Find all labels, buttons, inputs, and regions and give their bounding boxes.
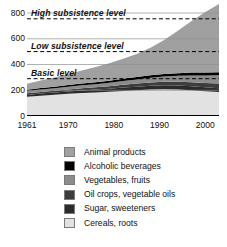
legend-swatch-icon [64, 204, 75, 214]
x-tick-label-1980: 1980 [104, 121, 123, 130]
reference-label-0: High subsistence level [31, 8, 126, 18]
stacked-area-chart: 0200400600800 19611970198019902000 High … [0, 0, 227, 136]
legend-item-4[interactable]: Sugar, sweeteners [0, 202, 227, 216]
legend-item-3[interactable]: Oil crops, vegetable oils [0, 188, 227, 202]
legend-swatch-icon [64, 147, 75, 157]
chart-figure: 0200400600800 19611970198019902000 High … [0, 0, 227, 247]
x-tick-label-1970: 1970 [59, 121, 78, 130]
legend-swatch-icon [64, 161, 75, 171]
x-tick-label-1990: 1990 [150, 121, 169, 130]
plot-svg [27, 4, 219, 116]
legend-swatch-icon [64, 190, 75, 200]
legend-item-5[interactable]: Cereals, roots [0, 216, 227, 230]
reference-label-1: Low subsistence level [31, 41, 124, 51]
x-axis: 19611970198019902000 [27, 119, 223, 133]
legend-item-label: Vegetables, fruits [84, 176, 150, 185]
legend-swatch-icon [64, 218, 75, 228]
y-tick-label-800: 800 [1, 9, 25, 18]
legend-item-0[interactable]: Animal products [0, 145, 227, 159]
plot-area [27, 4, 219, 116]
legend-item-label: Oil crops, vegetable oils [84, 190, 175, 199]
area-series-group [27, 4, 219, 116]
x-tick-label-2000: 2000 [196, 121, 215, 130]
reference-label-2: Basic level [31, 68, 77, 78]
x-tick-label-1961: 1961 [18, 121, 37, 130]
y-axis: 0200400600800 [0, 0, 25, 120]
legend-item-1[interactable]: Alcoholic beverages [0, 159, 227, 173]
legend-item-label: Animal products [84, 148, 146, 157]
legend-item-label: Sugar, sweeteners [84, 204, 155, 213]
legend-swatch-icon [64, 175, 75, 185]
legend-item-2[interactable]: Vegetables, fruits [0, 173, 227, 187]
legend-item-label: Cereals, roots [84, 219, 138, 228]
y-tick-label-0: 0 [1, 112, 25, 121]
y-tick-label-600: 600 [1, 34, 25, 43]
y-tick-label-200: 200 [1, 86, 25, 95]
legend-item-label: Alcoholic beverages [84, 162, 161, 171]
y-tick-label-400: 400 [1, 60, 25, 69]
chart-legend: Animal productsAlcoholic beveragesVegeta… [0, 145, 227, 230]
